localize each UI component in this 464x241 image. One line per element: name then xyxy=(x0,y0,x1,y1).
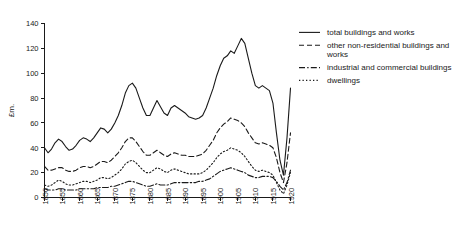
legend-label-3: dwellings xyxy=(327,76,360,85)
series-line-3 xyxy=(45,148,291,194)
x-tick-label: 1905 xyxy=(234,188,243,205)
legend-label-0: total buildings and works xyxy=(327,28,415,37)
y-tick-label: 80 xyxy=(30,94,38,103)
y-tick-label: 0 xyxy=(34,193,38,202)
x-tick-label: 1865 xyxy=(93,188,102,205)
legend-label-2: industrial and commercial buildings xyxy=(327,63,452,72)
y-tick-label: 100 xyxy=(26,69,39,78)
legend-label-1: other non-residential buildings and xyxy=(327,41,449,50)
x-axis: 1850185518601865187018751880188518901895… xyxy=(41,188,296,205)
y-tick-label: 20 xyxy=(30,168,38,177)
chart-container: 020406080100120140£m. 185018551860186518… xyxy=(0,0,464,241)
x-tick-label: 1895 xyxy=(199,188,208,205)
series-line-0 xyxy=(45,38,291,175)
y-tick-label: 120 xyxy=(26,44,39,53)
x-tick-label: 1890 xyxy=(181,188,190,205)
x-tick-label: 1920 xyxy=(287,188,296,205)
x-tick-label: 1875 xyxy=(128,188,137,205)
legend-label-1: works xyxy=(326,50,348,59)
y-axis-label: £m. xyxy=(7,104,16,117)
line-chart: 020406080100120140£m. 185018551860186518… xyxy=(0,0,464,241)
series-line-1 xyxy=(45,118,291,183)
x-tick-label: 1910 xyxy=(251,188,260,205)
x-tick-label: 1885 xyxy=(164,188,173,205)
y-axis: 020406080100120140£m. xyxy=(7,19,45,202)
x-tick-label: 1915 xyxy=(269,188,278,205)
series-line-2 xyxy=(45,168,291,190)
series-layer xyxy=(45,38,291,193)
x-tick-label: 1880 xyxy=(146,188,155,205)
x-tick-label: 1900 xyxy=(216,188,225,205)
y-tick-label: 140 xyxy=(26,19,39,28)
x-tick-label: 1855 xyxy=(58,188,67,205)
x-tick-label: 1870 xyxy=(111,188,120,205)
y-tick-label: 60 xyxy=(30,119,38,128)
y-tick-label: 40 xyxy=(30,144,38,153)
chart-legend: total buildings and worksother non-resid… xyxy=(299,28,452,85)
